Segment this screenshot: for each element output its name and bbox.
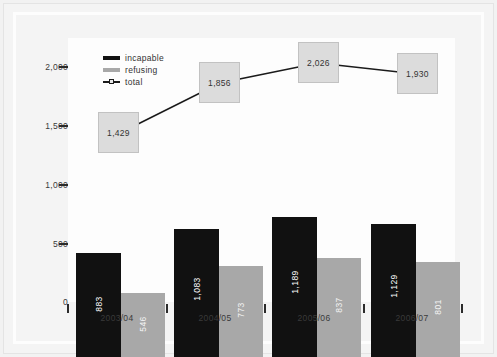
chart-figure: 2,000 1,500 1,000 500 0 883 546 1,083 77… (0, 0, 497, 357)
bar-refusing-2003-04: 546 (121, 293, 165, 357)
y-tick-mark-1500 (59, 125, 68, 127)
legend-item-incapable: incapable (103, 52, 164, 63)
x-tick-mark-4 (461, 304, 463, 313)
bar-value-label: 1,189 (290, 270, 300, 293)
bar-value-label: 1,083 (192, 277, 202, 300)
x-tick-mark-1 (166, 304, 168, 313)
x-axis-label-2004-05: 2004/05 (190, 313, 240, 323)
x-tick-mark-0 (67, 304, 69, 313)
x-tick-mark-3 (363, 304, 365, 313)
total-value-box-2005-06: 2,026 (298, 42, 339, 83)
bar-refusing-2006-07: 801 (416, 262, 460, 357)
legend-label-incapable: incapable (125, 53, 164, 63)
line-marker-icon (103, 78, 120, 85)
y-axis: 2,000 1,500 1,000 500 0 (8, 0, 68, 357)
bar-value-label: 1,129 (389, 274, 399, 297)
x-axis-label-2003-04: 2003/04 (92, 313, 142, 323)
legend-item-total: total (103, 76, 164, 87)
x-tick-mark-2 (264, 304, 266, 313)
x-axis-label-2006-07: 2006/07 (387, 313, 437, 323)
y-tick-mark-2000 (59, 66, 68, 68)
total-value-box-2003-04: 1,429 (98, 112, 139, 153)
bar-incapable-2003-04: 883 (76, 253, 121, 357)
chart-legend: incapable refusing total (103, 52, 164, 88)
total-value-box-2006-07: 1,930 (397, 53, 438, 94)
legend-label-total: total (125, 77, 143, 87)
y-tick-mark-1000 (59, 184, 68, 186)
legend-label-refusing: refusing (125, 65, 158, 75)
bar-value-label: 883 (94, 296, 104, 311)
bar-refusing-2004-05: 773 (219, 266, 263, 357)
square-marker-icon (109, 79, 114, 84)
bar-value-label: 837 (334, 297, 344, 312)
bar-swatch-icon-grey (103, 68, 120, 72)
bar-incapable-2005-06: 1,189 (272, 217, 317, 357)
bar-incapable-2006-07: 1,129 (371, 224, 416, 357)
bar-swatch-icon-dark (103, 56, 120, 60)
x-axis-label-2005-06: 2005/06 (289, 313, 339, 323)
legend-item-refusing: refusing (103, 64, 164, 75)
y-tick-mark-500 (59, 243, 68, 245)
total-value-box-2004-05: 1,856 (199, 62, 240, 103)
bar-refusing-2005-06: 837 (317, 258, 361, 357)
y-tick-label-0: 0 (24, 297, 68, 307)
bar-incapable-2004-05: 1,083 (174, 229, 219, 357)
